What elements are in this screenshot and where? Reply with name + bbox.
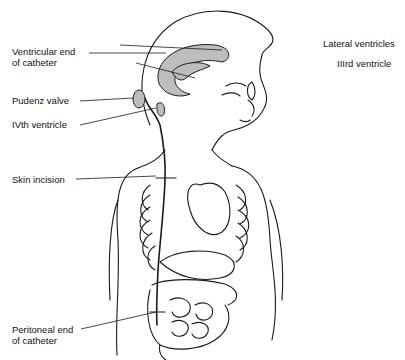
body-left [117, 168, 138, 355]
heart [188, 183, 230, 234]
pudenz-valve [133, 90, 145, 108]
leader-lines [76, 45, 222, 329]
fourth-ventricle [157, 103, 165, 116]
label-ventricular-end: Ventricular end of catheter [12, 46, 75, 68]
neck-left [138, 150, 165, 168]
brow [226, 83, 246, 86]
shunt-diagram: Ventricular end of catheter Lateral vent… [0, 0, 405, 360]
label-fourth-ventricle: IVth ventricle [12, 119, 67, 130]
liver [160, 251, 234, 279]
intestines [148, 280, 237, 360]
label-lateral-ventricles: Lateral ventricles [323, 38, 395, 49]
label-line: of catheter [12, 335, 73, 346]
label-line: of catheter [12, 57, 75, 68]
body-right [232, 166, 275, 340]
nose [248, 100, 254, 116]
mouth [240, 120, 250, 122]
label-line: Ventricular end [12, 46, 75, 57]
label-peritoneal-end: Peritoneal end of catheter [12, 324, 73, 346]
ribcage [140, 185, 249, 270]
label-line: Peritoneal end [12, 324, 73, 335]
eye [222, 93, 240, 96]
ear [248, 82, 256, 100]
label-third-ventricle: IIIrd ventricle [337, 58, 391, 69]
arm-right [270, 200, 283, 300]
catheter [145, 98, 165, 325]
neck-right [212, 150, 232, 166]
label-pudenz-valve: Pudenz valve [12, 95, 69, 106]
label-skin-incision: Skin incision [12, 174, 65, 185]
